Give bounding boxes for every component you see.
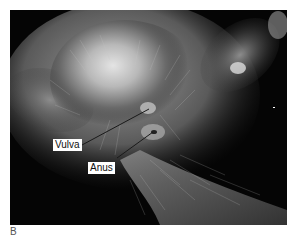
panel-letter: B [10,226,17,238]
kitten-perineum-photo: Vulva Anus [10,10,287,225]
anus-label: Anus [88,162,115,174]
vulva-label: Vulva [53,139,82,151]
fur-illustration [10,10,287,225]
